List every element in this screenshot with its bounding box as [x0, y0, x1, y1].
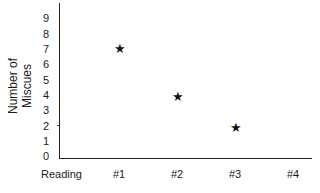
y-axis-label: Number of Miscues [6, 36, 34, 136]
x-tick-1: #1 [113, 168, 125, 180]
y-tick-5: 5 [41, 74, 51, 86]
y-tick-6: 6 [41, 58, 51, 70]
y-tick-7: 7 [41, 43, 51, 55]
star-marker-reading-2: ★ [172, 90, 184, 103]
y-tick-0: 0 [41, 150, 51, 162]
x-tick-3: #3 [229, 168, 241, 180]
y-axis-line [59, 3, 60, 159]
y-tick-9: 9 [41, 12, 51, 24]
y-tick-8: 8 [41, 28, 51, 40]
x-axis-label: Reading [41, 168, 82, 180]
x-tick-4: #4 [287, 168, 299, 180]
miscues-chart: Number of Miscues 0 1 2 3 4 5 6 7 8 9 Re… [0, 0, 320, 193]
x-axis-line [59, 158, 312, 159]
y-tick-4: 4 [41, 89, 51, 101]
star-marker-reading-1: ★ [114, 42, 126, 55]
star-marker-reading-3: ★ [230, 121, 242, 134]
y-tickmark-2 [57, 125, 59, 126]
y-tick-2: 2 [41, 120, 51, 132]
x-tick-2: #2 [171, 168, 183, 180]
y-tick-3: 3 [41, 104, 51, 116]
y-tick-1: 1 [41, 135, 51, 147]
